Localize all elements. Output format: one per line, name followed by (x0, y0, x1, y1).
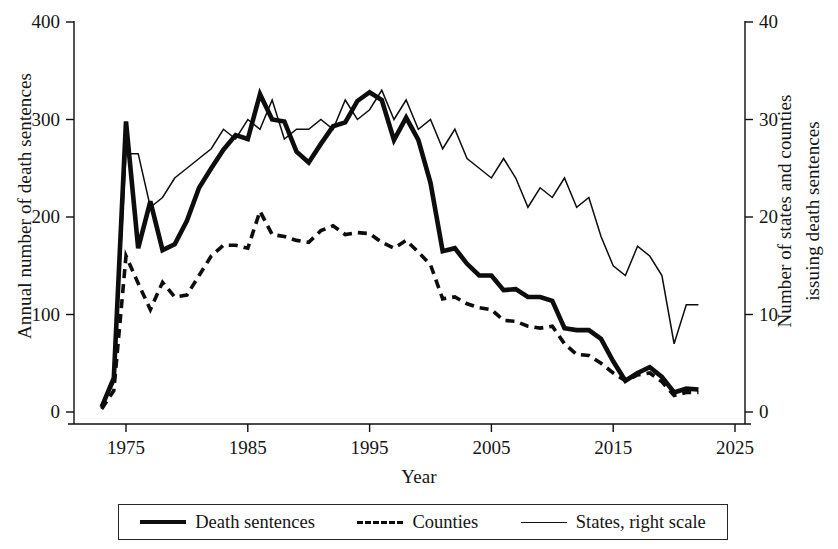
x-tick-label: 2015 (573, 437, 653, 459)
y-tick-label-right: 30 (759, 109, 815, 131)
x-tick-label: 1995 (330, 437, 410, 459)
dashed-line-icon (357, 521, 403, 524)
y-tick-label-right: 10 (759, 304, 815, 326)
y-tick-label-left: 0 (4, 401, 60, 423)
x-tick-label: 2025 (695, 437, 775, 459)
series-line-states-right-scale (102, 90, 699, 407)
legend-item: Counties (357, 513, 478, 532)
legend-item-label: Death sentences (195, 513, 315, 532)
chart-legend: Death sentencesCountiesStates, right sca… (118, 504, 728, 540)
x-tick-label: 2005 (451, 437, 531, 459)
x-tick-label: 1985 (208, 437, 288, 459)
y-tick-label-right: 0 (759, 401, 815, 423)
y-tick-label-right: 40 (759, 11, 815, 33)
y-tick-label-right: 20 (759, 206, 815, 228)
chart-figure: Annual number of death sentences Number … (0, 0, 838, 549)
x-axis-title: Year (0, 466, 838, 488)
legend-item: Death sentences (140, 513, 315, 532)
legend-item-label: States, right scale (576, 513, 706, 532)
y-tick-label-left: 100 (4, 304, 60, 326)
legend-item: States, right scale (521, 513, 706, 532)
y-tick-label-left: 300 (4, 109, 60, 131)
y-tick-label-left: 200 (4, 206, 60, 228)
series-line-counties (102, 211, 699, 409)
legend-item-label: Counties (412, 513, 478, 532)
series-line-death-sentences (102, 92, 699, 407)
x-tick-label: 1975 (86, 437, 166, 459)
thin-solid-line-icon (521, 522, 567, 523)
y-tick-label-left: 400 (4, 11, 60, 33)
thick-solid-line-icon (140, 520, 186, 524)
